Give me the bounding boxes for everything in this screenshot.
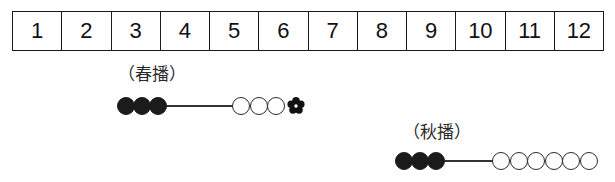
- month-cell-12: 12: [555, 12, 603, 50]
- open-circle-marker: [510, 152, 528, 170]
- sowing-calendar-diagram: 123456789101112 （春播）（秋播）: [0, 0, 615, 182]
- marker-track-autumn-sowing: [0, 151, 615, 171]
- sowing-label-spring-sowing: （春播）: [118, 66, 186, 83]
- month-cell-9: 9: [407, 12, 456, 50]
- open-circle-marker: [267, 97, 285, 115]
- month-cell-4: 4: [161, 12, 210, 50]
- sowing-label-autumn-sowing: （秋播）: [403, 124, 471, 141]
- connector-line-spring-sowing: [165, 105, 234, 107]
- flower-icon: [287, 97, 305, 115]
- month-cell-1: 1: [13, 12, 62, 50]
- month-cell-2: 2: [62, 12, 111, 50]
- month-cell-3: 3: [112, 12, 161, 50]
- open-circle-marker: [492, 152, 510, 170]
- open-circle-marker: [232, 97, 250, 115]
- month-cell-6: 6: [259, 12, 308, 50]
- month-cell-10: 10: [456, 12, 505, 50]
- filled-circle-marker: [149, 97, 167, 115]
- marker-track-spring-sowing: [0, 96, 615, 116]
- open-circle-marker: [250, 97, 268, 115]
- month-cell-5: 5: [210, 12, 259, 50]
- open-circle-marker: [580, 152, 598, 170]
- month-cell-7: 7: [309, 12, 358, 50]
- connector-line-autumn-sowing: [443, 160, 494, 162]
- open-circle-marker: [562, 152, 580, 170]
- month-cell-8: 8: [358, 12, 407, 50]
- month-scale-table: 123456789101112: [12, 11, 604, 51]
- open-circle-marker: [527, 152, 545, 170]
- filled-circle-marker: [427, 152, 445, 170]
- month-cell-11: 11: [506, 12, 555, 50]
- open-circle-marker: [545, 152, 563, 170]
